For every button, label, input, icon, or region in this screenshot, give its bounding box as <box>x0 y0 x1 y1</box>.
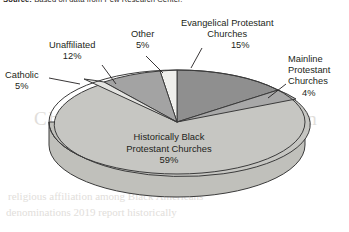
label-mainline-line1: Mainline <box>288 54 330 65</box>
label-hbp-value: 59% <box>96 154 242 166</box>
pie-chart <box>0 0 349 232</box>
label-evangelical-value: 15% <box>207 40 274 51</box>
label-evangelical-line1: Evangelical Protestant <box>181 18 274 29</box>
label-historically-black-protestant: Historically Black Protestant Churches 5… <box>96 131 242 166</box>
label-other: Other 5% <box>131 29 154 51</box>
label-mainline-line3: Churches <box>288 76 330 87</box>
label-mainline-line2: Protestant <box>288 65 330 76</box>
label-catholic: Catholic 5% <box>5 70 39 92</box>
label-other-name: Other <box>131 29 154 40</box>
label-hbp-line2: Protestant Churches <box>96 143 242 155</box>
label-unaffiliated-name: Unaffiliated <box>49 40 95 51</box>
label-mainline-value: 4% <box>302 88 330 99</box>
leader-line-catholic <box>49 78 80 84</box>
label-evangelical-protestant: Evangelical Protestant Churches 15% <box>181 18 274 52</box>
label-evangelical-line2: Churches <box>181 29 274 40</box>
label-hbp-line1: Historically Black <box>96 131 242 143</box>
label-unaffiliated: Unaffiliated 12% <box>49 40 95 62</box>
label-catholic-value: 5% <box>5 81 39 92</box>
label-mainline-protestant: Mainline Protestant Churches 4% <box>288 54 330 99</box>
label-other-value: 5% <box>131 40 154 51</box>
label-catholic-name: Catholic <box>5 70 39 81</box>
chart-figure: Church Members by Tradition religious af… <box>0 0 349 232</box>
label-unaffiliated-value: 12% <box>49 51 95 62</box>
